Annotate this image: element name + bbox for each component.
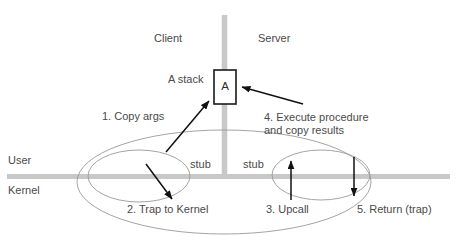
- arrow-trap-to-kernel: [146, 164, 172, 199]
- arrow-copy-args: [166, 101, 209, 152]
- label-step-3-upcall: 3. Upcall: [266, 203, 309, 216]
- rpc-diagram: Client Server A stack A 1. Copy args 4. …: [0, 0, 457, 241]
- label-step-5-return-trap: 5. Return (trap): [357, 203, 432, 216]
- label-client: Client: [154, 32, 182, 45]
- arrow-execute-procedure: [242, 87, 303, 104]
- label-client-stub: stub: [190, 158, 211, 171]
- label-a-stack: A stack: [168, 73, 203, 86]
- label-step-1-copy-args: 1. Copy args: [102, 110, 164, 123]
- label-user: User: [8, 154, 31, 167]
- label-step-4-execute-procedure: 4. Execute procedure and copy results: [264, 111, 369, 137]
- label-step-2-trap-to-kernel: 2. Trap to Kernel: [127, 203, 208, 216]
- label-server: Server: [258, 32, 290, 45]
- label-stack-frame-a: A: [214, 80, 236, 93]
- label-server-stub: stub: [243, 158, 264, 171]
- label-kernel: Kernel: [8, 184, 40, 197]
